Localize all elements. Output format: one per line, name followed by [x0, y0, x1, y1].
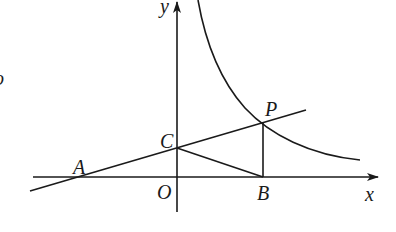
label-point-a: A — [73, 157, 85, 177]
label-x-axis: x — [365, 184, 374, 204]
label-point-c: C — [160, 131, 173, 151]
label-origin-o: O — [157, 182, 171, 202]
hyperbola-curve — [198, 0, 360, 160]
diagram-canvas: y o P C A O B x — [0, 0, 396, 232]
geometry-figure — [0, 0, 396, 232]
label-point-p: P — [265, 99, 277, 119]
label-point-b: B — [257, 183, 269, 203]
segment-cb — [177, 148, 263, 177]
label-y-axis: y — [160, 0, 169, 16]
label-fragment: o — [0, 68, 4, 88]
